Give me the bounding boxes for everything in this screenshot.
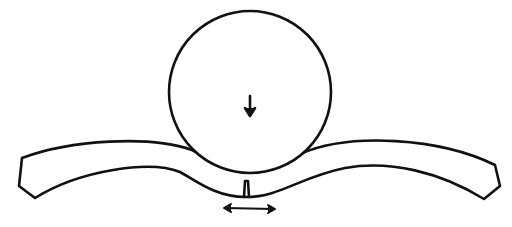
roller-beam-diagram: [0, 0, 512, 227]
crack: [244, 181, 249, 197]
tension-arrow-icon: [224, 204, 275, 213]
roller: [169, 11, 331, 173]
